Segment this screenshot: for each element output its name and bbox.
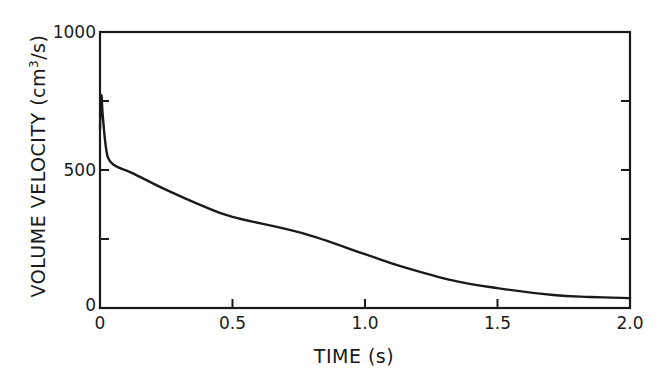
data-line xyxy=(100,95,630,298)
x-tick-label: 1.0 xyxy=(351,313,378,333)
y-tick-label: 1000 xyxy=(53,22,96,42)
y-axis-label-end: /s) xyxy=(27,35,49,60)
y-axis-label-main: VOLUME VELOCITY (cm xyxy=(27,68,49,297)
y-tick-label: 500 xyxy=(64,160,96,180)
x-tick-label: 0.5 xyxy=(219,313,246,333)
plot-area xyxy=(0,0,664,392)
axis-ticks xyxy=(100,101,630,308)
y-tick-label: 0 xyxy=(85,295,96,315)
x-tick-label: 1.5 xyxy=(484,313,511,333)
y-axis-label: VOLUME VELOCITY (cm3/s) xyxy=(27,35,49,298)
y-axis-label-superscript: 3 xyxy=(27,60,41,68)
chart-figure: VOLUME VELOCITY (cm3/s) TIME (s) 0500100… xyxy=(0,0,664,392)
x-tick-label: 0 xyxy=(95,313,106,333)
x-axis-label: TIME (s) xyxy=(314,345,394,367)
plot-frame xyxy=(100,32,630,308)
x-tick-label: 2.0 xyxy=(616,313,643,333)
